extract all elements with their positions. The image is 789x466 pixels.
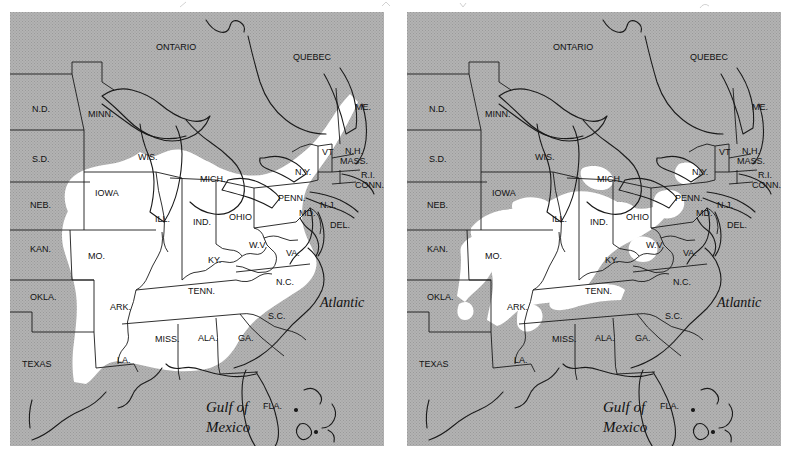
state-label-nc: N.C.	[673, 277, 691, 287]
ocean-label-atlantic: Atlantic	[319, 295, 365, 310]
state-label-ala: ALA.	[595, 333, 615, 343]
state-label-del: DEL.	[727, 220, 747, 230]
state-label-ohio: OHIO	[229, 212, 252, 222]
state-label-nh: N.H.	[742, 146, 760, 156]
state-label-conn: CONN.	[355, 180, 384, 190]
state-label-ontario: ONTARIO	[553, 42, 593, 52]
state-label-wis: WIS.	[535, 152, 555, 162]
ocean-label-gulfof: Gulf of	[603, 399, 647, 415]
state-label-miss: MISS.	[155, 334, 180, 344]
map-panel-left[interactable]: ONTARIOQUEBECN.D.MINN.S.D.WIS.MICH.N.Y.M…	[10, 12, 384, 446]
state-label-fla: FLA.	[263, 401, 282, 411]
state-label-iowa: IOWA	[492, 188, 516, 198]
state-label-sc: S.C.	[665, 311, 683, 321]
state-label-minn: MINN.	[88, 109, 114, 119]
state-label-vt: VT	[719, 147, 731, 157]
state-label-ny: N.Y.	[692, 167, 708, 177]
state-label-ga: GA.	[238, 333, 254, 343]
state-label-neb: NEB.	[427, 200, 448, 210]
state-label-la: LA.	[117, 355, 131, 365]
state-label-ala: ALA.	[198, 333, 218, 343]
state-label-ontario: ONTARIO	[156, 42, 196, 52]
state-label-vt: VT	[322, 147, 334, 157]
state-label-wv: W.V.	[646, 240, 664, 250]
state-label-texas: TEXAS	[419, 359, 449, 369]
state-label-del: DEL.	[330, 220, 350, 230]
state-label-sd: S.D.	[32, 154, 50, 164]
ocean-label-atlantic: Atlantic	[716, 295, 762, 310]
state-label-neb: NEB.	[30, 200, 51, 210]
state-label-ill: ILL.	[155, 214, 170, 224]
state-label-ill: ILL.	[552, 214, 567, 224]
map-panel-right[interactable]: ONTARIOQUEBECN.D.MINN.S.D.WIS.MICH.N.Y.M…	[407, 12, 781, 446]
state-label-mich: MICH.	[597, 174, 623, 184]
state-label-nc: N.C.	[276, 277, 294, 287]
state-label-md: MD.	[696, 208, 713, 218]
state-label-ri: R.I.	[361, 170, 375, 180]
state-label-ark: ARK.	[110, 302, 131, 312]
ocean-label-mexico: Mexico	[602, 419, 648, 435]
state-label-kan: KAN.	[30, 244, 51, 254]
state-label-sc: S.C.	[268, 311, 286, 321]
state-label-ark: ARK.	[507, 302, 528, 312]
state-label-ind: IND.	[193, 217, 211, 227]
state-label-nh: N.H.	[345, 146, 363, 156]
state-label-ny: N.Y.	[295, 167, 311, 177]
state-label-wv: W.V.	[249, 240, 267, 250]
state-label-ri: R.I.	[758, 170, 772, 180]
state-label-penn: PENN.	[675, 193, 703, 203]
state-label-ohio: OHIO	[626, 212, 649, 222]
state-label-iowa: IOWA	[95, 188, 119, 198]
state-label-tenn: TENN.	[585, 286, 612, 296]
state-label-me: ME.	[752, 102, 768, 112]
state-label-texas: TEXAS	[22, 359, 52, 369]
state-label-nd: N.D.	[429, 104, 447, 114]
state-label-mo: MO.	[485, 251, 502, 261]
state-label-nd: N.D.	[32, 104, 50, 114]
state-label-va: VA.	[683, 248, 697, 258]
ocean-label-mexico: Mexico	[205, 419, 251, 435]
state-label-nj: N.J.	[717, 200, 733, 210]
state-label-sd: S.D.	[429, 154, 447, 164]
state-label-md: MD.	[299, 208, 316, 218]
state-label-kan: KAN.	[427, 244, 448, 254]
state-label-mass: MASS.	[340, 156, 368, 166]
map-right-svg: ONTARIOQUEBECN.D.MINN.S.D.WIS.MICH.N.Y.M…	[407, 12, 781, 446]
state-label-ind: IND.	[590, 217, 608, 227]
state-label-la: LA.	[514, 355, 528, 365]
state-label-mo: MO.	[88, 251, 105, 261]
state-label-conn: CONN.	[752, 180, 781, 190]
ocean-label-gulfof: Gulf of	[206, 399, 250, 415]
state-label-miss: MISS.	[552, 334, 577, 344]
state-label-okla: OKLA.	[427, 292, 454, 302]
state-label-me: ME.	[355, 102, 371, 112]
two-map-figure: ONTARIOQUEBECN.D.MINN.S.D.WIS.MICH.N.Y.M…	[0, 0, 789, 466]
state-label-ky: KY.	[605, 255, 618, 265]
state-label-tenn: TENN.	[188, 286, 215, 296]
state-label-minn: MINN.	[485, 109, 511, 119]
state-label-penn: PENN.	[278, 193, 306, 203]
state-label-mass: MASS.	[737, 156, 765, 166]
state-label-ky: KY.	[208, 255, 221, 265]
state-label-va: VA.	[286, 248, 300, 258]
state-label-nj: N.J.	[320, 200, 336, 210]
map-left-svg: ONTARIOQUEBECN.D.MINN.S.D.WIS.MICH.N.Y.M…	[10, 12, 384, 446]
state-label-fla: FLA.	[660, 401, 679, 411]
state-label-wis: WIS.	[138, 152, 158, 162]
state-label-ga: GA.	[635, 333, 651, 343]
state-label-okla: OKLA.	[30, 292, 57, 302]
state-label-mich: MICH.	[200, 174, 226, 184]
state-label-quebec: QUEBEC	[293, 52, 332, 62]
state-label-quebec: QUEBEC	[690, 52, 729, 62]
